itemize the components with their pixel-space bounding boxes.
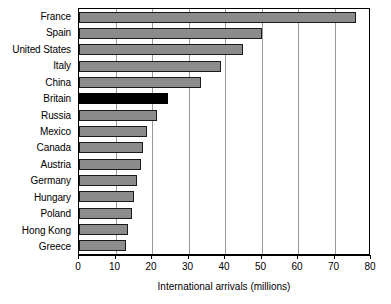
y-tick-label: Canada <box>0 140 75 156</box>
x-tick <box>334 255 335 259</box>
x-tick-label: 0 <box>63 261 93 273</box>
x-tick-label: 40 <box>209 261 239 273</box>
bar-row <box>79 107 369 123</box>
bar-row <box>79 205 369 221</box>
y-tick-label: Hungary <box>0 189 75 205</box>
bar-poland[interactable] <box>79 208 132 219</box>
y-tick-label: China <box>0 74 75 90</box>
x-tick-label: 70 <box>319 261 349 273</box>
bar-britain[interactable] <box>79 93 168 104</box>
x-tick <box>261 255 262 259</box>
bar-row <box>79 42 369 58</box>
x-tick <box>370 255 371 259</box>
bar-chart: FranceSpainUnited StatesItalyChinaBritai… <box>0 0 391 304</box>
x-tick-label: 80 <box>355 261 385 273</box>
x-tick-label: 50 <box>246 261 276 273</box>
bar-row <box>79 91 369 107</box>
x-tick <box>224 255 225 259</box>
y-tick-label: France <box>0 8 75 24</box>
bar-row <box>79 172 369 188</box>
bar-spain[interactable] <box>79 28 262 39</box>
bar-united-states[interactable] <box>79 44 243 55</box>
x-tick <box>188 255 189 259</box>
bar-row <box>79 189 369 205</box>
x-tick <box>151 255 152 259</box>
bar-series <box>79 9 369 254</box>
bar-row <box>79 140 369 156</box>
x-axis-title: International arrivals (millions) <box>78 281 370 293</box>
bar-row <box>79 238 369 254</box>
y-tick-label: Hong Kong <box>0 222 75 238</box>
bar-hungary[interactable] <box>79 191 134 202</box>
x-axis: 01020304050607080 <box>78 255 370 256</box>
y-tick-label: Greece <box>0 239 75 255</box>
bar-row <box>79 156 369 172</box>
bar-germany[interactable] <box>79 175 137 186</box>
y-tick-label: Britain <box>0 90 75 106</box>
x-tick <box>78 255 79 259</box>
bar-italy[interactable] <box>79 61 221 72</box>
y-tick-label: Austria <box>0 156 75 172</box>
bar-china[interactable] <box>79 77 201 88</box>
y-tick-label: Mexico <box>0 123 75 139</box>
bar-austria[interactable] <box>79 159 141 170</box>
y-tick-label: Germany <box>0 173 75 189</box>
y-tick-label: Russia <box>0 107 75 123</box>
bar-hong-kong[interactable] <box>79 224 128 235</box>
y-tick-label: Italy <box>0 57 75 73</box>
bar-mexico[interactable] <box>79 126 147 137</box>
bar-canada[interactable] <box>79 142 143 153</box>
y-tick-label: Poland <box>0 206 75 222</box>
bar-russia[interactable] <box>79 110 157 121</box>
x-tick-label: 10 <box>100 261 130 273</box>
x-tick <box>297 255 298 259</box>
x-tick-label: 20 <box>136 261 166 273</box>
bar-france[interactable] <box>79 12 356 23</box>
y-tick-label: United States <box>0 41 75 57</box>
bar-row <box>79 25 369 41</box>
x-tick-label: 30 <box>173 261 203 273</box>
bar-greece[interactable] <box>79 240 126 251</box>
y-axis-category-labels: FranceSpainUnited StatesItalyChinaBritai… <box>0 8 75 255</box>
plot-area <box>78 8 370 255</box>
bar-row <box>79 74 369 90</box>
bar-row <box>79 9 369 25</box>
y-tick-label: Spain <box>0 24 75 40</box>
x-tick <box>115 255 116 259</box>
bar-row <box>79 123 369 139</box>
x-tick-label: 60 <box>282 261 312 273</box>
bar-row <box>79 58 369 74</box>
bar-row <box>79 221 369 237</box>
